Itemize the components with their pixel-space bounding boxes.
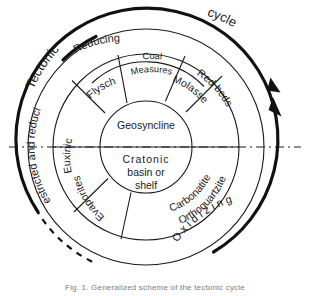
divider-flysch-coal	[118, 55, 127, 103]
middle-label-flysch: Flysch	[84, 74, 117, 100]
core-label-cratonic-line3: shelf	[135, 179, 157, 191]
arc-label-tectonic: Tectonic	[22, 41, 62, 90]
figure-canvas: Reducing O x i d i z i n g Restricted an…	[0, 0, 310, 296]
tectonic-cycle-arc-dashed	[36, 209, 95, 263]
middle-label-evaporites: Evaporites	[70, 175, 106, 225]
core-label-geosyncline: Geosyncline	[117, 119, 175, 131]
core-label-cratonic-line1: Cratonic	[122, 153, 169, 165]
figure-caption-text: Fig. 1. Generalized scheme of the tecton…	[0, 280, 310, 296]
core-label-cratonic-line2: basin or	[127, 166, 165, 178]
outer-label-reducing: Reducing	[71, 31, 120, 55]
tectonic-cycle-diagram: Reducing O x i d i z i n g Restricted an…	[0, 0, 310, 296]
outer-label-restricted-and-reducing: Restricted and reducing	[0, 0, 53, 207]
middle-label-coal-measures-line2: Measures	[130, 64, 174, 77]
middle-label-euxinic: Euxinic	[60, 137, 74, 175]
middle-label-coal-measures-line1: Coal	[142, 51, 162, 62]
divider-ortho-evaporites	[121, 193, 131, 240]
cycle-arrowhead-upper	[267, 78, 281, 93]
figure-caption: Fig. 1. Generalized scheme of the tecton…	[0, 280, 310, 296]
